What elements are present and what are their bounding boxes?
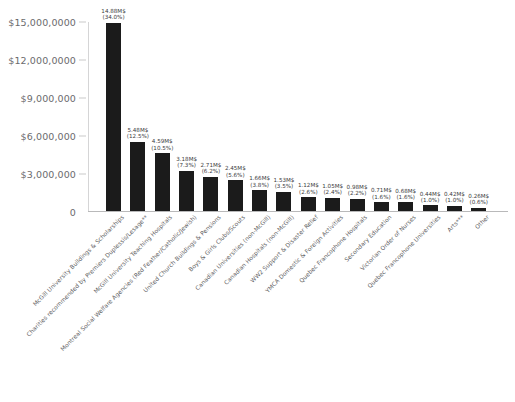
bar-value-percent: (3.5%) xyxy=(274,183,295,189)
bar-value-amount: 0.98M$ xyxy=(347,184,368,190)
bar-value-label: 5.48M$(12.5%) xyxy=(127,127,149,140)
bar-value-amount: 2.71M$ xyxy=(201,162,222,168)
bar-value-amount: 0.42M$ xyxy=(444,191,465,197)
bar-value-amount: 3.18M$ xyxy=(176,156,197,162)
bar-group[interactable]: 1.53M$(3.5%) xyxy=(272,21,296,211)
bar-group[interactable]: 2.71M$(6.2%) xyxy=(199,21,223,211)
x-axis: McGill University Buildings & Scholarshi… xyxy=(88,214,513,402)
bar[interactable] xyxy=(301,197,316,211)
y-tick-label: $9,000,000 xyxy=(21,93,76,104)
bar-value-label: 0.68M$(1.6%) xyxy=(395,188,416,201)
bar-group[interactable]: 0.26M$(0.6%) xyxy=(467,21,491,211)
bar[interactable] xyxy=(130,142,145,211)
bar[interactable] xyxy=(423,205,438,211)
bar[interactable] xyxy=(471,208,486,211)
bar-value-percent: (5.6%) xyxy=(225,172,246,178)
bar-group[interactable]: 1.05M$(2.4%) xyxy=(321,21,345,211)
bar-group[interactable]: 1.12M$(2.6%) xyxy=(296,21,320,211)
bar-group[interactable]: 0.44M$(1.0%) xyxy=(418,21,442,211)
bar[interactable] xyxy=(203,177,218,211)
bar-value-amount: 14.88M$ xyxy=(101,8,125,14)
bar-group[interactable]: 2.45M$(5.6%) xyxy=(223,21,247,211)
y-tick-label: $15,000,0000 xyxy=(8,17,76,28)
bar-value-label: 0.42M$(1.0%) xyxy=(444,191,465,204)
bar-value-label: 1.05M$(2.4%) xyxy=(322,183,343,196)
bar-value-percent: (3.8%) xyxy=(249,182,270,188)
bar-value-amount: 1.66M$ xyxy=(249,175,270,181)
y-tick-mark xyxy=(79,60,86,61)
bar-value-amount: 2.45M$ xyxy=(225,165,246,171)
bar-group[interactable]: 1.66M$(3.8%) xyxy=(247,21,271,211)
x-tick-label: Arts*** xyxy=(447,214,467,234)
bar-value-percent: (2.2%) xyxy=(347,190,368,196)
bar-value-percent: (34.0%) xyxy=(101,14,125,20)
x-tick-label: Other xyxy=(474,214,491,231)
bar-group[interactable]: 14.88M$(34.0%) xyxy=(101,21,125,211)
bar-group[interactable]: 4.59M$(10.5%) xyxy=(150,21,174,211)
bar-value-label: 0.71M$(1.6%) xyxy=(371,187,392,200)
bar-group[interactable]: 5.48M$(12.5%) xyxy=(126,21,150,211)
bar-value-percent: (2.4%) xyxy=(322,189,343,195)
bar-value-percent: (1.0%) xyxy=(420,197,441,203)
y-tick-label: $6,000,000 xyxy=(21,131,76,142)
bar-value-percent: (2.6%) xyxy=(298,189,319,195)
bar-value-amount: 1.05M$ xyxy=(322,183,343,189)
bar-chart: 0$3,000,000$6,000,000$9,000,000$12,000,0… xyxy=(0,0,515,402)
bar-value-label: 0.26M$(0.6%) xyxy=(468,193,489,206)
bar[interactable] xyxy=(228,180,243,211)
bar-value-amount: 0.68M$ xyxy=(395,188,416,194)
bar[interactable] xyxy=(106,23,121,211)
bar-value-amount: 0.71M$ xyxy=(371,187,392,193)
bar-group[interactable]: 0.71M$(1.6%) xyxy=(369,21,393,211)
bar-value-percent: (12.5%) xyxy=(127,133,149,139)
y-tick-mark xyxy=(79,174,86,175)
bar-value-label: 0.98M$(2.2%) xyxy=(347,184,368,197)
bar-value-percent: (1.0%) xyxy=(444,197,465,203)
bar-value-percent: (7.3%) xyxy=(176,162,197,168)
bar-value-label: 1.12M$(2.6%) xyxy=(298,182,319,195)
x-tick-label: McGill University Buildings & Scholarshi… xyxy=(31,214,125,308)
bar-group[interactable]: 3.18M$(7.3%) xyxy=(174,21,198,211)
bar-value-amount: 1.12M$ xyxy=(298,182,319,188)
bar-value-amount: 1.53M$ xyxy=(274,177,295,183)
bar-group[interactable]: 0.68M$(1.6%) xyxy=(394,21,418,211)
y-axis: 0$3,000,000$6,000,000$9,000,000$12,000,0… xyxy=(0,0,88,215)
bar[interactable] xyxy=(374,202,389,211)
bar-value-percent: (10.5%) xyxy=(151,145,173,151)
plot-area: 14.88M$(34.0%)5.48M$(12.5%)4.59M$(10.5%)… xyxy=(88,22,508,212)
bar-value-amount: 5.48M$ xyxy=(127,127,148,133)
bar-value-label: 2.71M$(6.2%) xyxy=(201,162,222,175)
bar-value-percent: (6.2%) xyxy=(201,168,222,174)
bar-value-label: 2.45M$(5.6%) xyxy=(225,165,246,178)
bar-value-label: 4.59M$(10.5%) xyxy=(151,138,173,151)
bar-value-percent: (1.6%) xyxy=(395,194,416,200)
y-tick-mark xyxy=(79,136,86,137)
y-tick-label: 0 xyxy=(70,207,76,218)
bar-value-amount: 0.44M$ xyxy=(420,191,441,197)
y-tick-mark xyxy=(79,22,86,23)
bar-group[interactable]: 0.42M$(1.0%) xyxy=(442,21,466,211)
bar[interactable] xyxy=(276,192,291,211)
y-tick-mark xyxy=(79,98,86,99)
bar-value-label: 3.18M$(7.3%) xyxy=(176,156,197,169)
bar-group[interactable]: 0.98M$(2.2%) xyxy=(345,21,369,211)
bar-value-label: 14.88M$(34.0%) xyxy=(101,8,125,21)
bar[interactable] xyxy=(398,202,413,211)
bar-value-amount: 4.59M$ xyxy=(152,138,173,144)
bar-value-amount: 0.26M$ xyxy=(468,193,489,199)
bar-value-label: 1.66M$(3.8%) xyxy=(249,175,270,188)
bar-value-label: 0.44M$(1.0%) xyxy=(420,191,441,204)
bar-value-percent: (0.6%) xyxy=(468,199,489,205)
y-tick-label: $3,000,000 xyxy=(21,169,76,180)
bar-value-percent: (1.6%) xyxy=(371,194,392,200)
bar[interactable] xyxy=(350,199,365,211)
bar[interactable] xyxy=(155,153,170,211)
bar[interactable] xyxy=(447,206,462,211)
bar-series: 14.88M$(34.0%)5.48M$(12.5%)4.59M$(10.5%)… xyxy=(88,22,508,212)
y-tick-label: $12,000,0000 xyxy=(8,55,76,66)
bar[interactable] xyxy=(325,198,340,211)
bar[interactable] xyxy=(252,190,267,211)
bar-value-label: 1.53M$(3.5%) xyxy=(274,177,295,190)
bar[interactable] xyxy=(179,171,194,211)
